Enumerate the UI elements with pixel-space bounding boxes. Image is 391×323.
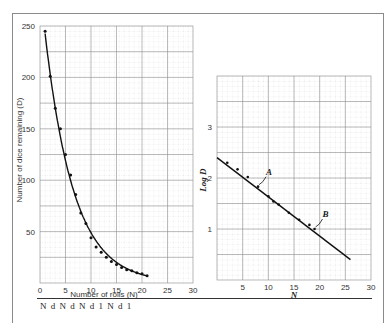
data-point	[49, 75, 52, 78]
data-point	[84, 222, 87, 225]
data-point	[236, 168, 239, 171]
data-point	[135, 271, 138, 274]
data-point	[313, 228, 316, 231]
y-tick-label: 2	[208, 174, 213, 183]
data-point	[226, 161, 229, 164]
data-point	[90, 236, 93, 239]
data-point	[69, 174, 72, 177]
data-point	[146, 274, 149, 277]
data-point	[247, 176, 250, 179]
annotation-label-b: B	[322, 209, 329, 219]
x-tick-label: 10	[264, 283, 273, 292]
data-point	[141, 272, 144, 275]
data-point	[64, 153, 67, 156]
right-y-axis-label: Log D	[198, 168, 208, 193]
data-point	[115, 263, 118, 266]
y-tick-label: 3	[208, 123, 213, 132]
x-tick-label: 0	[38, 286, 43, 295]
data-point	[308, 224, 311, 227]
data-point	[272, 200, 275, 203]
x-tick-label: 5	[240, 283, 245, 292]
x-tick-label: 30	[367, 283, 376, 292]
data-point	[74, 193, 77, 196]
left-chart: 25020015010050 051015202530 Number of ro…	[15, 22, 198, 299]
footer-table-header-partial: N d N d N d 1 N d 1	[40, 301, 132, 311]
right-y-tick-labels: 321	[208, 123, 213, 234]
data-point	[105, 256, 108, 259]
right-x-tick-labels: 51015202530	[240, 283, 376, 292]
footer-rule	[37, 298, 372, 299]
y-tick-label: 50	[26, 228, 35, 237]
data-point	[110, 260, 113, 263]
data-point	[288, 211, 291, 214]
data-point	[59, 127, 62, 130]
x-tick-label: 5	[63, 286, 68, 295]
data-point	[125, 268, 128, 271]
left-y-axis-label: Number of dice remaining (D)	[15, 97, 24, 202]
data-point	[100, 251, 103, 254]
y-tick-label: 250	[22, 22, 36, 31]
data-point	[267, 195, 270, 198]
x-tick-label: 20	[138, 286, 147, 295]
y-tick-label: 1	[208, 225, 213, 234]
data-point	[95, 246, 98, 249]
data-point	[120, 266, 123, 269]
x-tick-label: 20	[315, 283, 324, 292]
data-point	[79, 212, 82, 215]
data-point	[54, 107, 57, 110]
x-tick-label: 30	[189, 286, 198, 295]
data-point	[257, 185, 260, 188]
data-point	[130, 269, 133, 272]
y-tick-label: 200	[22, 73, 36, 82]
x-tick-label: 25	[341, 283, 350, 292]
right-chart: AB 321 51015202530 N Log D	[198, 76, 376, 300]
data-point	[298, 219, 301, 222]
x-tick-label: 25	[163, 286, 172, 295]
annotation-label-a: A	[265, 167, 272, 177]
data-point	[44, 30, 47, 33]
data-point	[277, 203, 280, 206]
